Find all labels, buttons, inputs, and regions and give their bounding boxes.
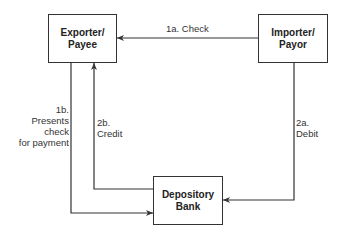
exporter-payee-box: Exporter/ Payee [48, 14, 117, 63]
depository-bank-label: Depository Bank [162, 189, 214, 213]
edge-label-1a: 1a. Check [166, 23, 209, 34]
exporter-payee-label: Exporter/ Payee [61, 27, 105, 51]
edge-label-2a: 2a. Debit [296, 117, 318, 139]
edge-label-2b: 2b. Credit [97, 117, 122, 139]
importer-payor-box: Importer/ Payor [258, 14, 328, 63]
importer-payor-label: Importer/ Payor [271, 27, 314, 51]
edge-label-1b: 1b. Presents check for payment [19, 104, 69, 148]
depository-bank-box: Depository Bank [153, 176, 223, 225]
arrow-2a-debit [223, 62, 294, 200]
